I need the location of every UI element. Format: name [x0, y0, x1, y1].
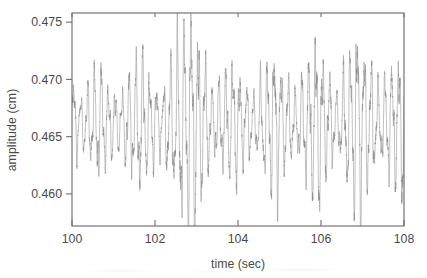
- x-tick-label: 104: [228, 232, 249, 246]
- y-tick-labels: 0.4600.4650.4700.475: [31, 15, 62, 201]
- x-tick-label: 100: [62, 232, 83, 246]
- x-tick-label: 106: [311, 232, 332, 246]
- y-tick-label: 0.475: [31, 15, 62, 29]
- x-tick-labels: 100102104106108: [62, 232, 415, 246]
- y-tick-label: 0.465: [31, 130, 62, 144]
- y-axis-label-wrap: amplitude (cm): [0, 50, 25, 210]
- y-axis-label: amplitude (cm): [5, 89, 19, 172]
- x-tick-label: 102: [145, 232, 166, 246]
- plot-canvas: 100102104106108 0.4600.4650.4700.475 tim…: [0, 0, 427, 278]
- y-tick-label: 0.460: [31, 187, 62, 201]
- x-tick-label: 108: [394, 232, 415, 246]
- amplitude-vs-time-figure: 100102104106108 0.4600.4650.4700.475 tim…: [0, 0, 427, 278]
- y-tick-label: 0.470: [31, 73, 62, 87]
- x-axis-label: time (sec): [211, 257, 265, 271]
